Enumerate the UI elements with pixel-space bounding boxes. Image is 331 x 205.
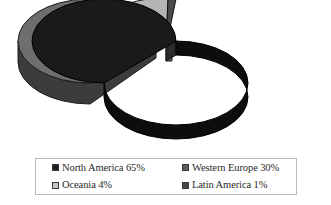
legend-swatch-north-america: [52, 164, 59, 171]
legend-swatch-oceania: [52, 182, 59, 189]
legend-label-latin-america: Latin America 1%: [192, 180, 267, 191]
legend-label-oceania: Oceania 4%: [62, 180, 112, 191]
legend-label-western-europe: Western Europe 30%: [192, 163, 279, 174]
legend-item-north-america[interactable]: North America 65%: [36, 163, 166, 174]
legend-item-oceania[interactable]: Oceania 4%: [36, 180, 166, 191]
chart-legend: North America 65% Western Europe 30% Oce…: [35, 158, 297, 195]
pie-plot-area: [0, 0, 331, 140]
legend-item-latin-america[interactable]: Latin America 1%: [166, 180, 296, 191]
legend-item-western-europe[interactable]: Western Europe 30%: [166, 163, 296, 174]
legend-grid: North America 65% Western Europe 30% Oce…: [36, 159, 296, 194]
legend-swatch-western-europe: [182, 164, 189, 171]
slice-north-america-top: [32, 0, 176, 83]
legend-label-north-america: North America 65%: [62, 163, 145, 174]
pie-graphic: [0, 0, 331, 140]
legend-swatch-latin-america: [182, 182, 189, 189]
pie-chart-figure: North America 65% Western Europe 30% Oce…: [0, 0, 331, 205]
